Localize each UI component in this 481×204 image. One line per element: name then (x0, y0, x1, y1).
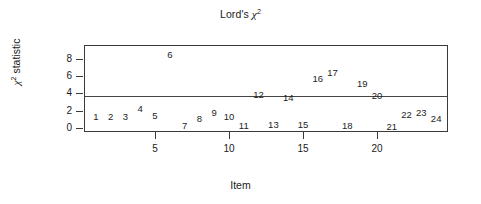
y-axis-chi-symbol: χ (10, 80, 22, 85)
x-tick-mark (229, 132, 230, 139)
data-point-label: 5 (152, 111, 157, 121)
x-axis-label: Item (0, 179, 481, 191)
x-tick-label: 5 (142, 144, 168, 154)
data-point-label: 15 (298, 120, 309, 130)
chart-title-prefix: Lord's (220, 8, 252, 20)
data-point-label: 3 (123, 112, 128, 122)
data-point-label: 10 (224, 112, 235, 122)
x-tick-mark (377, 132, 378, 139)
y-tick-label: 4 (50, 88, 72, 98)
y-axis-chi-exponent: 2 (10, 77, 18, 81)
data-point-label: 24 (431, 114, 442, 124)
data-point-label: 19 (357, 79, 368, 89)
y-tick-label: 6 (50, 71, 72, 81)
data-point-label: 8 (197, 114, 202, 124)
reference-line (84, 96, 448, 97)
data-point-label: 13 (268, 120, 279, 130)
y-axis-label-suffix: statistic (10, 39, 22, 77)
x-tick-mark (303, 132, 304, 139)
data-point-label: 17 (327, 68, 338, 78)
y-tick-mark (76, 111, 83, 112)
data-point-label: 2 (108, 112, 113, 122)
data-point-label: 23 (416, 109, 427, 119)
chart-figure: Lord's χ2 χ2 statistic 02468 5101520 123… (0, 0, 481, 204)
data-point-label: 14 (283, 93, 294, 103)
data-point-label: 7 (182, 121, 187, 131)
data-point-label: 6 (167, 50, 172, 60)
y-tick-mark (76, 93, 83, 94)
data-point-label: 4 (138, 104, 143, 114)
chi-exponent: 2 (257, 8, 261, 16)
y-tick-label: 0 (50, 123, 72, 133)
data-point-label: 1 (93, 112, 98, 122)
chart-title: Lord's χ2 (0, 8, 481, 20)
x-tick-mark (155, 132, 156, 139)
data-point-label: 12 (253, 90, 264, 100)
plot-area (84, 45, 448, 132)
y-axis-label: χ2 statistic (10, 22, 22, 102)
x-tick-label: 20 (364, 144, 390, 154)
data-point-label: 21 (386, 122, 397, 132)
data-point-label: 22 (401, 110, 412, 120)
y-tick-label: 2 (50, 106, 72, 116)
y-tick-mark (76, 59, 83, 60)
data-point-label: 20 (372, 91, 383, 101)
data-point-label: 9 (212, 109, 217, 119)
x-tick-label: 15 (290, 144, 316, 154)
y-tick-mark (76, 128, 83, 129)
data-point-label: 11 (239, 122, 249, 132)
y-tick-mark (76, 76, 83, 77)
data-point-label: 16 (312, 74, 323, 84)
data-point-label: 18 (342, 121, 353, 131)
y-tick-label: 8 (50, 54, 72, 64)
x-tick-label: 10 (216, 144, 242, 154)
